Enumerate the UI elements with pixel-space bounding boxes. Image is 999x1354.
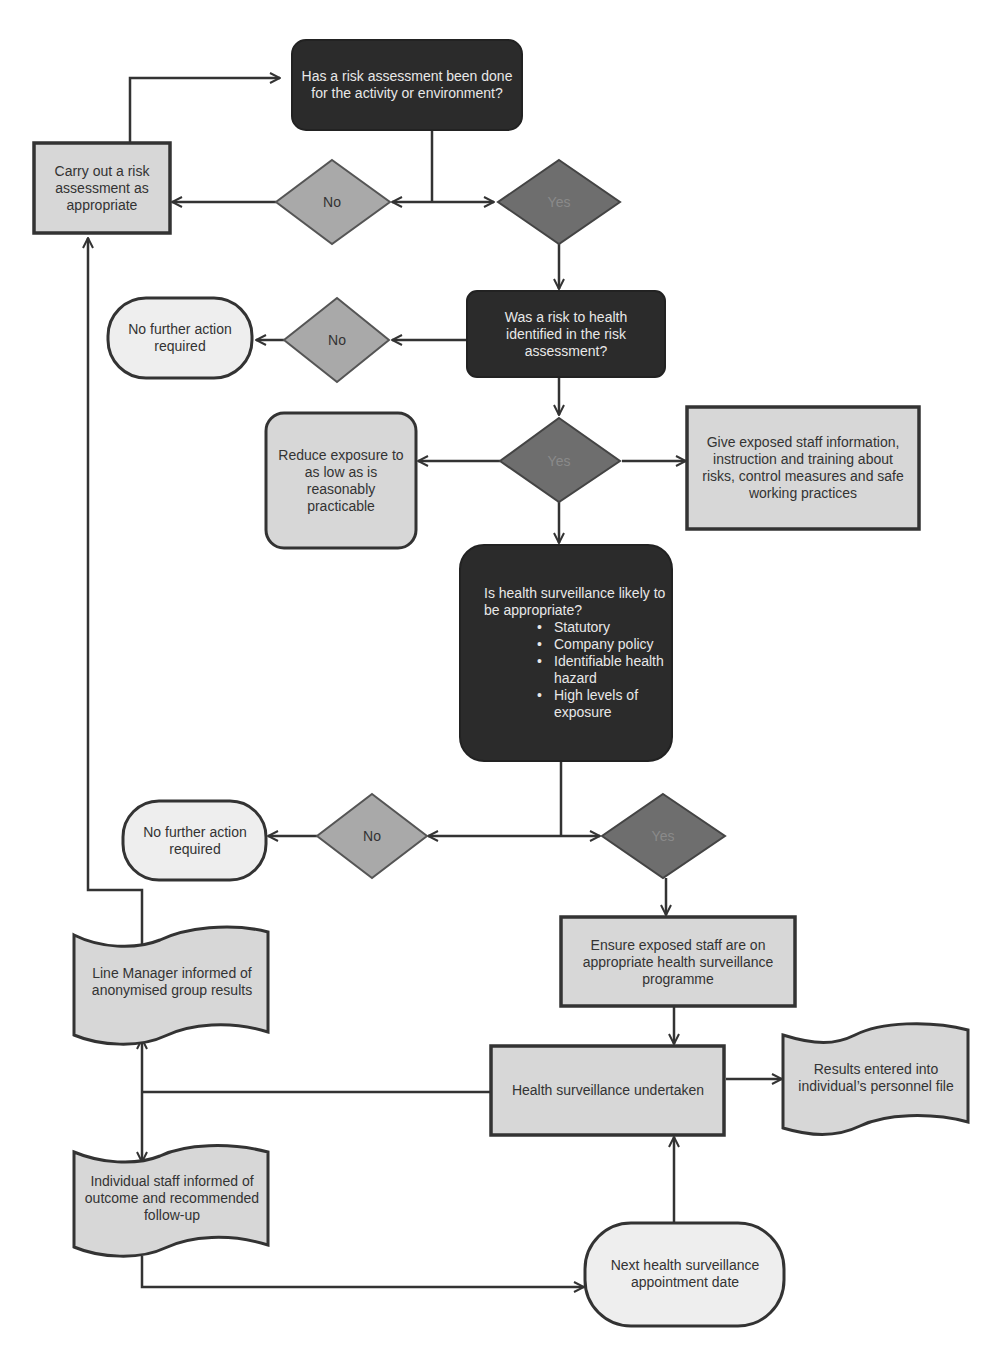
no-2-label: No [305,330,369,350]
line-manager-label: Line Manager informed of anonymised grou… [84,944,260,1020]
q3-criterion: Identifiable health hazard [482,653,672,687]
q3-criterion: Company policy [482,636,672,653]
individual-label: Individual staff informed of outcome and… [84,1160,260,1236]
q3-criterion: Statutory [482,619,672,636]
yes-1-label: Yes [527,192,591,212]
q1-label: Has a risk assessment been done for the … [300,44,514,126]
q2-label: Was a risk to health identified in the r… [480,295,652,373]
no-1-label: No [300,192,364,212]
nfa-2-label: No further action required [133,806,257,876]
carry-out-label: Carry out a risk assessment as appropria… [40,148,164,228]
yes-3-label: Yes [631,826,695,846]
ensure-label: Ensure exposed staff are on appropriate … [572,922,784,1002]
no-3-label: No [340,826,404,846]
arrow-individual-to-nextdate [142,1256,584,1287]
q3-content: Is health surveillance likely to be appr… [462,550,670,756]
give-info-label: Give exposed staff information, instruct… [700,412,906,524]
arrow-carryout-to-q1 [130,78,280,143]
next-date-label: Next health surveillance appointment dat… [600,1232,770,1316]
results-file-label: Results entered into individual’s person… [790,1040,962,1116]
q3-title: Is health surveillance likely to be appr… [482,585,674,619]
q3-criteria-list: Statutory Company policy Identifiable he… [482,619,670,721]
yes-2-label: Yes [527,451,591,471]
hs-undertaken-label: Health surveillance undertaken [510,1050,706,1130]
reduce-label: Reduce exposure to as low as is reasonab… [276,418,406,543]
q3-criterion: High levels of exposure [482,687,672,721]
nfa-1-label: No further action required [118,302,242,374]
